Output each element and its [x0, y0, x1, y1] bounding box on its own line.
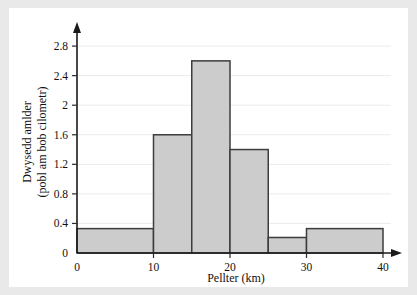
x-axis-arrow-icon [391, 249, 402, 257]
y-axis-arrow-icon [73, 22, 81, 33]
y-tick-label: 1.2 [54, 158, 69, 170]
histogram-bar [307, 229, 384, 253]
x-tick-label: 30 [301, 261, 313, 273]
y-tick-label: 2 [62, 99, 68, 111]
y-tick-label: 1.6 [54, 129, 69, 141]
y-tick-label: 0.8 [54, 188, 69, 200]
y-axis [73, 22, 81, 253]
x-tick-label: 10 [148, 261, 160, 273]
histogram-bar [154, 135, 192, 253]
x-tick-label: 40 [377, 261, 389, 273]
x-tick-label: 0 [74, 261, 80, 273]
histogram-bar [77, 229, 154, 253]
chart-svg: 00.40.81.21.622.42.8 010203040 Pellter (… [9, 8, 408, 287]
chart-panel: 00.40.81.21.622.42.8 010203040 Pellter (… [9, 8, 408, 287]
y-tick-labels: 00.40.81.21.622.42.8 [54, 40, 69, 259]
y-axis-title-line2: (pobl am bob cilometr) [35, 87, 49, 198]
histogram-chart: 00.40.81.21.622.42.8 010203040 Pellter (… [9, 8, 408, 287]
y-tick-label: 2.8 [54, 40, 69, 52]
x-axis-title: Pellter (km) [207, 271, 265, 285]
histogram-bar [192, 61, 230, 253]
y-axis-title-line1: Dwysedd amlder [20, 101, 34, 183]
histogram-bar [268, 237, 306, 253]
y-tick-label: 0.4 [54, 217, 69, 229]
histogram-bar [230, 150, 268, 253]
y-tick-label: 2.4 [54, 70, 69, 82]
y-tick-label: 0 [62, 247, 68, 259]
bars [77, 61, 383, 253]
screenshot-root: 00.40.81.21.622.42.8 010203040 Pellter (… [0, 0, 417, 295]
